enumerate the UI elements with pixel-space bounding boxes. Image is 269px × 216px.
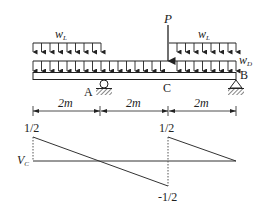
live-load-right-label: wL [198, 27, 210, 42]
live-load-left: wL [33, 27, 101, 52]
live-load-left-label: wL [55, 27, 67, 42]
shear-diagram: 1/2 1/2 -1/2 VC [17, 121, 236, 204]
point-b-label: B [240, 68, 248, 82]
dead-load-label: wD [239, 53, 252, 68]
live-load-right: wL [169, 27, 236, 52]
dead-load: wD [33, 53, 252, 71]
shear-value-mid-top: 1/2 [159, 121, 174, 135]
support-a-roller: A [84, 80, 112, 99]
dimension-label-3: 2m [194, 96, 209, 110]
point-load-label: P [163, 11, 172, 26]
dimension-line: 2m 2m 2m [33, 96, 236, 116]
beam-diagram: wL wL P [0, 0, 269, 216]
beam [33, 73, 236, 80]
shear-value-mid-bottom: -1/2 [158, 190, 177, 204]
dimension-label-1: 2m [58, 96, 73, 110]
point-c-label: C [163, 81, 171, 95]
shear-value-left-top: 1/2 [24, 121, 39, 135]
point-a-label: A [84, 85, 93, 99]
point-load-p: P [163, 11, 172, 61]
shear-variable-label: VC [17, 153, 29, 168]
dimension-label-2: 2m [126, 96, 141, 110]
